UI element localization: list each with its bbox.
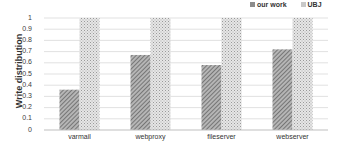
x-tick-label: fileserver <box>192 133 252 140</box>
x-tick-label: webproxy <box>121 133 181 140</box>
y-tick-label: 0.7 <box>10 47 32 54</box>
y-tick-label: 0.4 <box>10 81 32 88</box>
bar-chart: Write distribution 00.10.20.30.40.50.60.… <box>0 0 343 151</box>
x-tick-label: varmail <box>50 133 110 140</box>
y-tick-label: 0.9 <box>10 25 32 32</box>
bar-webserver-our-work <box>273 49 293 130</box>
y-tick-label: 1 <box>10 14 32 21</box>
bar-fileserver-ubj <box>222 18 242 130</box>
bar-webproxy-ubj <box>151 18 171 130</box>
legend: our work UBJ <box>250 1 322 8</box>
legend-label: UBJ <box>308 1 322 8</box>
y-tick-label: 0.3 <box>10 92 32 99</box>
x-tick-label: webserver <box>263 133 323 140</box>
legend-swatch-our-work <box>250 2 255 7</box>
bar-varmail-our-work <box>60 90 80 130</box>
y-tick-label: 0.5 <box>10 70 32 77</box>
y-tick-label: 0.8 <box>10 36 32 43</box>
y-tick-label: 0.1 <box>10 114 32 121</box>
legend-item-ubj: UBJ <box>301 1 322 8</box>
bar-webserver-ubj <box>293 18 313 130</box>
bar-varmail-ubj <box>80 18 100 130</box>
bar-webproxy-our-work <box>131 55 151 130</box>
bar-fileserver-our-work <box>202 65 222 130</box>
y-tick-label: 0 <box>10 126 32 133</box>
legend-item-our-work: our work <box>250 1 287 8</box>
legend-label: our work <box>257 1 287 8</box>
legend-swatch-ubj <box>301 2 306 7</box>
y-tick-label: 0.6 <box>10 58 32 65</box>
plot-area <box>0 0 343 151</box>
y-tick-label: 0.2 <box>10 103 32 110</box>
